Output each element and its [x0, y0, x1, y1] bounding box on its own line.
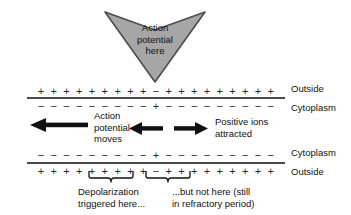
charge-symbol: +: [227, 165, 237, 177]
bottom-cytoplasm-label: Cytoplasm: [291, 147, 336, 158]
charge-symbol: −: [202, 100, 212, 112]
charge-symbol: −: [253, 149, 263, 161]
action-potential-moves-label: Action potential moves: [94, 110, 130, 145]
charge-symbol: +: [266, 165, 276, 177]
charge-symbol: −: [227, 100, 237, 112]
charge-symbol: +: [36, 85, 46, 97]
top-cytoplasm-label: Cytoplasm: [291, 102, 336, 113]
charge-symbol: +: [113, 85, 123, 97]
charge-symbol: −: [138, 100, 148, 112]
charge-symbol: +: [240, 85, 250, 97]
charge-symbol: −: [215, 149, 225, 161]
charge-symbol: +: [62, 85, 72, 97]
charge-symbol: −: [100, 149, 110, 161]
charge-symbol: −: [113, 149, 123, 161]
charge-symbol: −: [164, 100, 174, 112]
charge-symbol: +: [215, 165, 225, 177]
charge-symbol: +: [176, 85, 186, 97]
charge-symbol: −: [266, 149, 276, 161]
top-membrane-line: [27, 97, 285, 99]
top-membrane-outside-charges: +++++++++−+++++++++: [36, 85, 276, 97]
charge-symbol: −: [62, 149, 72, 161]
charge-symbol: −: [176, 100, 186, 112]
ap-moves-line3: moves: [94, 133, 130, 145]
positive-ions-line2: attracted: [215, 128, 268, 140]
charge-symbol: +: [189, 85, 199, 97]
action-potential-moves-arrow-icon: [30, 118, 88, 132]
depolarization-line1: Depolarization: [78, 186, 145, 198]
charge-symbol: −: [151, 85, 161, 97]
charge-symbol: −: [62, 100, 72, 112]
charge-symbol: +: [74, 165, 84, 177]
charge-symbol: −: [227, 149, 237, 161]
charge-symbol: −: [189, 149, 199, 161]
charge-symbol: −: [125, 149, 135, 161]
charge-symbol: +: [215, 85, 225, 97]
charge-symbol: +: [49, 85, 59, 97]
charge-symbol: −: [36, 149, 46, 161]
charge-symbol: +: [138, 85, 148, 97]
depolarization-line2: triggered here...: [78, 198, 145, 210]
positive-ions-left-arrow-icon: [129, 122, 163, 135]
charge-symbol: +: [202, 85, 212, 97]
charge-symbol: +: [100, 85, 110, 97]
charge-symbol: +: [240, 165, 250, 177]
ap-moves-line1: Action: [94, 110, 130, 122]
charge-symbol: −: [189, 100, 199, 112]
charge-symbol: +: [266, 85, 276, 97]
positive-ions-right-arrow-icon: [174, 122, 208, 135]
refractory-brace-icon: [145, 171, 191, 183]
positive-ions-label: Positive ions attracted: [215, 116, 268, 139]
charge-symbol: −: [240, 100, 250, 112]
chevron-label: Action potential here: [103, 22, 207, 57]
charge-symbol: −: [253, 100, 263, 112]
charge-symbol: +: [87, 85, 97, 97]
refractory-line1: ...but not here (still: [172, 186, 254, 198]
action-potential-diagram: Action potential here +++++++++−++++++++…: [0, 0, 351, 215]
bottom-membrane-cytoplasm-charges: −−−−−−−−−+−−−−−−−−−: [36, 149, 276, 161]
charge-symbol: +: [253, 165, 263, 177]
charge-symbol: −: [240, 149, 250, 161]
charge-symbol: +: [151, 100, 161, 112]
refractory-line2: in refractory period): [172, 198, 254, 210]
charge-symbol: +: [151, 149, 161, 161]
charge-symbol: +: [253, 85, 263, 97]
positive-ions-line1: Positive ions: [215, 116, 268, 128]
charge-symbol: +: [202, 165, 212, 177]
bottom-outside-label: Outside: [291, 166, 324, 177]
charge-symbol: −: [49, 149, 59, 161]
charge-symbol: −: [164, 149, 174, 161]
charge-symbol: −: [87, 149, 97, 161]
chevron-label-line1: Action: [103, 22, 207, 34]
charge-symbol: −: [215, 100, 225, 112]
charge-symbol: −: [138, 149, 148, 161]
charge-symbol: −: [176, 149, 186, 161]
chevron-label-line2: potential: [103, 34, 207, 46]
refractory-caption: ...but not here (still in refractory per…: [172, 186, 254, 209]
top-outside-label: Outside: [291, 83, 324, 94]
charge-symbol: −: [74, 149, 84, 161]
top-membrane-cytoplasm-charges: −−−−−−−−−+−−−−−−−−−: [36, 100, 276, 112]
charge-symbol: −: [202, 149, 212, 161]
charge-symbol: +: [62, 165, 72, 177]
depolarization-brace-icon: [88, 171, 134, 183]
charge-symbol: −: [49, 100, 59, 112]
charge-symbol: −: [266, 100, 276, 112]
charge-symbol: +: [74, 85, 84, 97]
charge-symbol: −: [36, 100, 46, 112]
chevron-label-line3: here: [103, 45, 207, 57]
charge-symbol: +: [227, 85, 237, 97]
ap-moves-line2: potential: [94, 122, 130, 134]
charge-symbol: +: [36, 165, 46, 177]
bottom-membrane-line: [27, 162, 285, 164]
depolarization-caption: Depolarization triggered here...: [78, 186, 145, 209]
charge-symbol: +: [49, 165, 59, 177]
charge-symbol: +: [164, 85, 174, 97]
charge-symbol: −: [74, 100, 84, 112]
charge-symbol: +: [125, 85, 135, 97]
